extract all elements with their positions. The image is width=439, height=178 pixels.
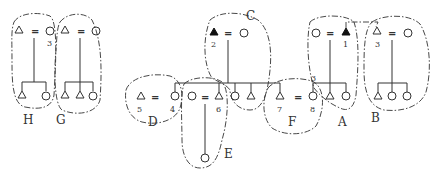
number-3: 3 bbox=[47, 39, 52, 48]
female-circle bbox=[309, 92, 317, 100]
marriage-sign: = bbox=[294, 92, 302, 103]
number-8: 8 bbox=[310, 105, 315, 114]
group-c: 2 = C bbox=[205, 9, 271, 110]
male-triangle bbox=[18, 91, 26, 98]
group-b: 3 = B bbox=[364, 16, 429, 125]
number-2: 2 bbox=[211, 40, 216, 49]
group-label-f: F bbox=[288, 115, 296, 129]
number-5: 5 bbox=[137, 105, 142, 114]
marriage-sign: = bbox=[31, 26, 39, 37]
male-triangle bbox=[137, 92, 145, 99]
number-4: 4 bbox=[170, 105, 175, 114]
number-6: 6 bbox=[216, 105, 221, 114]
male-triangle bbox=[15, 26, 23, 33]
group-boundary-b bbox=[364, 16, 429, 110]
number-7: 7 bbox=[277, 105, 282, 114]
group-boundary-c bbox=[205, 13, 271, 110]
male-triangle bbox=[215, 92, 223, 99]
group-label-h: H bbox=[23, 113, 33, 127]
group-h: = 3 H bbox=[12, 14, 56, 127]
male-triangle bbox=[76, 91, 84, 98]
group-label-b: B bbox=[371, 111, 380, 125]
number-1: 1 bbox=[343, 40, 348, 49]
group-a: = 1 3 A bbox=[308, 16, 358, 129]
female-circle bbox=[89, 92, 97, 100]
male-triangle bbox=[373, 27, 381, 34]
group-e: = 6 E bbox=[182, 78, 233, 168]
ego-filled-triangle bbox=[210, 28, 218, 35]
female-circle bbox=[342, 92, 350, 100]
marriage-sign: = bbox=[201, 92, 209, 103]
kinship-diagram: = 3 H = G 2 = C bbox=[0, 0, 439, 178]
female-circle bbox=[240, 29, 248, 37]
ego-filled-triangle bbox=[342, 28, 350, 35]
female-circle bbox=[404, 29, 412, 37]
female-circle bbox=[171, 92, 179, 100]
female-circle bbox=[201, 154, 209, 162]
female-circle bbox=[312, 29, 320, 37]
number-3: 3 bbox=[375, 40, 380, 49]
male-triangle bbox=[276, 92, 284, 99]
female-circle bbox=[46, 27, 54, 35]
group-d: 5 = 4 D bbox=[126, 75, 182, 129]
male-triangle bbox=[374, 92, 382, 99]
group-label-d: D bbox=[148, 115, 158, 129]
marriage-sign: = bbox=[151, 92, 159, 103]
marriage-sign: = bbox=[388, 28, 396, 39]
male-triangle bbox=[326, 92, 334, 99]
group-f: 7 = 8 F bbox=[264, 79, 323, 134]
group-label-e: E bbox=[224, 147, 233, 161]
marriage-sign: = bbox=[224, 28, 232, 39]
group-label-a: A bbox=[337, 115, 347, 129]
female-circle bbox=[188, 92, 196, 100]
group-label-c: C bbox=[246, 9, 255, 23]
male-triangle bbox=[247, 92, 255, 99]
group-g: = G bbox=[55, 14, 101, 127]
male-triangle bbox=[61, 26, 69, 33]
male-triangle bbox=[61, 91, 69, 98]
female-circle bbox=[231, 92, 239, 100]
female-circle bbox=[42, 92, 50, 100]
ego-link-line bbox=[346, 22, 378, 28]
female-circle bbox=[403, 92, 411, 100]
group-label-g: G bbox=[56, 113, 66, 127]
female-circle bbox=[388, 92, 396, 100]
marriage-sign: = bbox=[77, 26, 85, 37]
marriage-sign: = bbox=[326, 28, 334, 39]
